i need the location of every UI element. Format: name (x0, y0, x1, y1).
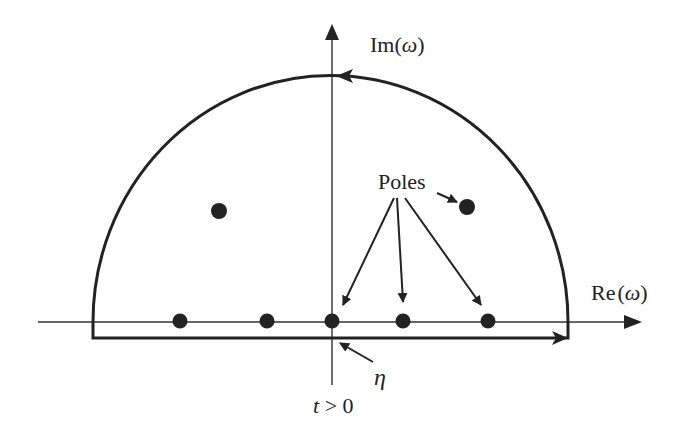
condition-label: t > 0 (313, 393, 354, 418)
poles-real-axis (173, 314, 496, 329)
real-axis (38, 315, 642, 329)
imaginary-axis (325, 24, 339, 385)
real-axis-arrowhead-icon (624, 315, 642, 329)
integration-contour (93, 69, 568, 345)
pole-marker (260, 314, 275, 329)
real-axis-label: Re(ω) (591, 280, 648, 305)
pole-marker (173, 314, 188, 329)
pole-marker (325, 314, 340, 329)
poles-label: Poles (378, 169, 426, 194)
pole-marker (396, 314, 411, 329)
pole-marker (459, 199, 475, 215)
imaginary-axis-label: Im(ω) (370, 32, 425, 57)
imaginary-axis-arrowhead-icon (325, 24, 339, 40)
eta-arrow (340, 343, 373, 362)
pole-marker (211, 203, 227, 219)
contour-diagram: Im(ω) Re(ω) Poles η t > 0 (0, 0, 686, 442)
eta-label: η (374, 364, 386, 390)
poles-upper-half (211, 199, 475, 219)
pole-marker (481, 314, 496, 329)
